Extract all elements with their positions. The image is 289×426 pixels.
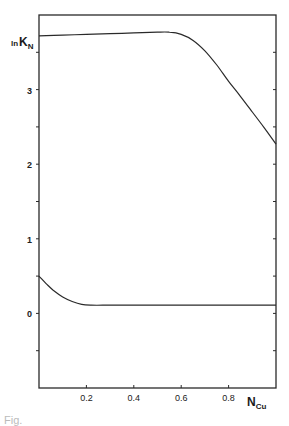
axis-tick-labels: 0.20.40.60.80123 xyxy=(27,86,235,403)
plot-frame xyxy=(39,15,276,388)
x-tick-label: 0.4 xyxy=(128,393,141,403)
x-axis-label-n: N xyxy=(247,395,256,409)
y-tick-label: 1 xyxy=(27,235,32,245)
y-tick-label: 0 xyxy=(27,309,32,319)
y-tick-label: 3 xyxy=(27,86,32,96)
x-axis-label-sub: Cu xyxy=(256,402,267,411)
figure-caption: Fig. xyxy=(4,414,22,426)
y-axis-label-k: K xyxy=(19,35,28,49)
x-tick-label: 0.2 xyxy=(80,393,93,403)
axis-ticks xyxy=(36,52,276,388)
lower-curve xyxy=(39,276,276,305)
y-axis-label: lnKN xyxy=(11,35,34,51)
x-tick-label: 0.8 xyxy=(222,393,235,403)
x-tick-label: 0.6 xyxy=(175,393,188,403)
y-axis-label-sub: N xyxy=(28,42,34,51)
y-tick-label: 2 xyxy=(27,160,32,170)
upper-curve xyxy=(39,32,276,144)
data-series xyxy=(39,32,276,305)
y-axis-label-ln: ln xyxy=(11,39,18,48)
x-axis-label: NCu xyxy=(247,395,266,411)
